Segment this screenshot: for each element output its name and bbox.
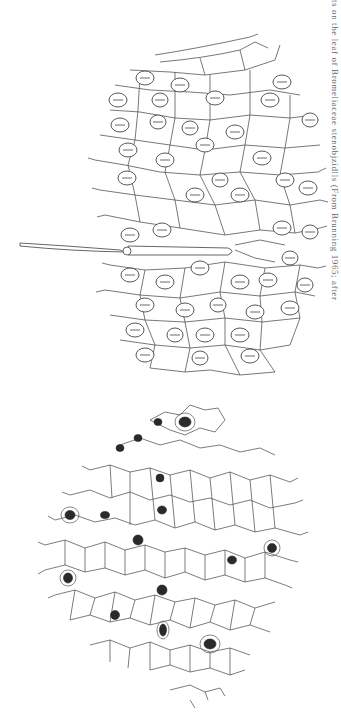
stomata-lower xyxy=(60,413,280,653)
lower-epidermis-panel xyxy=(38,405,308,708)
stomata-upper xyxy=(109,71,318,365)
epidermis-drawings xyxy=(0,0,341,715)
figure: ts on the leaf of Bromeliaceae stenobjzi… xyxy=(0,0,341,715)
figure-caption: ts on the leaf of Bromeliaceae stenobjzi… xyxy=(329,0,341,715)
upper-epidermis-panel xyxy=(20,34,328,375)
trichome-hair xyxy=(20,243,232,255)
